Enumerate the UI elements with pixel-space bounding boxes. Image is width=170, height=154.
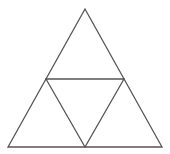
triangle-diagram bbox=[0, 0, 170, 154]
outer-triangle bbox=[8, 9, 162, 147]
inner-triangle bbox=[46, 79, 124, 147]
